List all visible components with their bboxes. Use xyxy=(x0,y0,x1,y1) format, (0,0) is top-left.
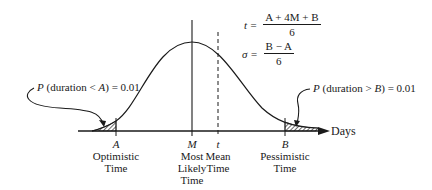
right-tail-annotation: P (duration > B) = 0.01 xyxy=(313,82,416,94)
sigma-denominator: 6 xyxy=(276,54,282,67)
sigma-formula: σ = B − A 6 xyxy=(242,40,294,67)
label-line: Time xyxy=(203,162,233,174)
prob-text: (duration > xyxy=(320,82,375,94)
mean-numerator: A + 4M + B xyxy=(263,11,320,25)
right-annotation-arrow xyxy=(297,89,310,124)
point-t-label: t Mean Time xyxy=(203,138,233,174)
symbol-t: t xyxy=(203,138,233,150)
prob-value: ) = 0.01 xyxy=(381,82,416,94)
sigma-fraction: B − A 6 xyxy=(264,40,294,67)
left-tail-annotation: P (duration < A) = 0.01 xyxy=(37,81,140,93)
label-line: Optimistic xyxy=(86,150,146,162)
left-annotation-arrow xyxy=(27,88,103,124)
symbol-b: B xyxy=(250,138,320,150)
label-line: Mean xyxy=(203,150,233,162)
axis-arrowhead xyxy=(318,127,330,135)
label-line: Time xyxy=(86,162,146,174)
point-b-label: B Pessimistic Time xyxy=(250,138,320,174)
mean-formula: t = A + 4M + B 6 xyxy=(244,11,321,38)
prob-symbol: P xyxy=(37,81,44,93)
axis-label-days: Days xyxy=(331,125,356,137)
mean-denominator: 6 xyxy=(289,25,295,38)
prob-text: (duration < xyxy=(44,81,99,93)
mean-lhs: t = xyxy=(244,19,257,31)
left-arrowhead xyxy=(99,120,106,127)
sigma-lhs: σ = xyxy=(242,48,258,60)
label-line: Time xyxy=(172,174,212,186)
label-line: Pessimistic xyxy=(250,150,320,162)
symbol-a: A xyxy=(86,138,146,150)
mean-fraction: A + 4M + B 6 xyxy=(263,11,320,38)
point-a-label: A Optimistic Time xyxy=(86,138,146,174)
prob-value: ) = 0.01 xyxy=(105,81,140,93)
label-line: Time xyxy=(250,162,320,174)
sigma-numerator: B − A xyxy=(264,40,294,54)
prob-symbol: P xyxy=(313,82,320,94)
